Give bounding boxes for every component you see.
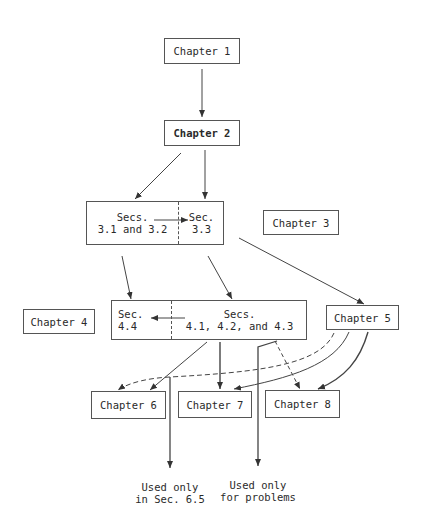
node-chapter-4: Chapter 4 [23, 309, 95, 334]
node-chapter-3-sections: Secs. 3.1 and 3.2 Sec. 3.3 [86, 201, 224, 245]
arrow-ch5-ch8 [318, 332, 368, 389]
connector-lines [0, 0, 422, 525]
node-chapter-4-sections: Sec. 4.4 Secs. 4.1, 4.2, and 4.3 [111, 300, 307, 340]
note-used-only-problems: Used only for problems [208, 479, 308, 503]
arrow-ch5-ch6-dashed [118, 333, 334, 390]
arrow-sec33-ch5 [239, 238, 364, 304]
node-secs-3-1-3-2: Secs. 3.1 and 3.2 [87, 202, 178, 244]
arrow-sec31-sec44 [122, 256, 131, 299]
arrow-sec41-ch8-dashed [275, 341, 300, 389]
dependency-diagram: Chapter 1 Chapter 2 Secs. 3.1 and 3.2 Se… [0, 0, 422, 525]
arrow-ch5-ch7 [234, 332, 349, 389]
node-chapter-3: Chapter 3 [263, 210, 339, 235]
node-chapter-2: Chapter 2 [164, 120, 240, 146]
arrow-ch2-sec31 [135, 153, 181, 199]
node-chapter-6: Chapter 6 [91, 391, 166, 419]
node-chapter-7: Chapter 7 [178, 391, 252, 418]
node-chapter-8: Chapter 8 [265, 390, 340, 418]
node-secs-4-1-4-3: Secs. 4.1, 4.2, and 4.3 [172, 301, 307, 339]
note-used-only-sec-6-5: Used only in Sec. 6.5 [120, 481, 220, 505]
node-sec-4-4: Sec. 4.4 [118, 301, 158, 339]
arrow-sec33-sec41 [208, 256, 232, 299]
node-sec-3-3: Sec. 3.3 [179, 202, 224, 244]
node-chapter-5: Chapter 5 [326, 305, 399, 330]
node-chapter-1: Chapter 1 [164, 38, 240, 64]
arrow-sec41-ch6 [150, 342, 207, 390]
